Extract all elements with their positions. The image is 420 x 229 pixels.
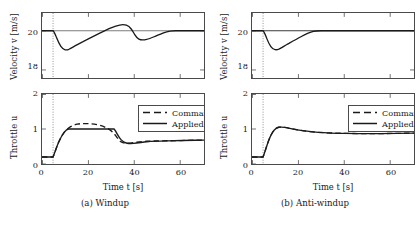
y-tick-label-18: 18 — [2, 62, 38, 70]
legend-dashed-line-icon — [352, 107, 378, 118]
x-tick-label-40: 40 — [124, 168, 144, 176]
x-tick-label-20: 20 — [288, 168, 308, 176]
legend-solid-line-icon — [352, 118, 378, 129]
legend-label-commanded: Commanded — [168, 108, 205, 118]
legend-item-commanded: Commanded — [142, 107, 205, 118]
legend-label-commanded: Commanded — [378, 108, 415, 118]
x-tick-marks — [252, 13, 390, 78]
panel-throttle-anti-windup: Throttle u 0 1 2 — [210, 85, 420, 195]
y-tick-label-18: 18 — [212, 62, 248, 70]
y-tick-label-1: 1 — [212, 125, 248, 133]
x-tick-label-20: 20 — [78, 168, 98, 176]
x-tick-label-0: 0 — [31, 168, 51, 176]
x-tick-label-60: 60 — [171, 168, 191, 176]
velocity-windup-svg — [42, 13, 204, 78]
legend-throttle-anti-windup: Commanded Applied — [348, 105, 415, 132]
y-tick-label-20: 20 — [2, 28, 38, 36]
panel-throttle-windup: Throttle u 0 1 2 — [0, 85, 210, 195]
y-tick-label-1: 1 — [2, 125, 38, 133]
x-axis-label-time: Time t [s] — [251, 182, 415, 192]
x-tick-label-40: 40 — [334, 168, 354, 176]
subfigure-caption-windup: (a) Windup — [0, 198, 210, 208]
legend-item-applied: Applied — [352, 118, 415, 129]
legend-label-applied: Applied — [168, 119, 204, 129]
y-axis-label-throttle: Throttle u — [9, 116, 19, 159]
legend-dashed-line-icon — [142, 107, 168, 118]
velocity-anti-windup-svg — [252, 13, 414, 78]
panel-velocity-anti-windup: Velocity v [m/s] 18 20 — [210, 0, 420, 90]
x-tick-label-0: 0 — [241, 168, 261, 176]
velocity-trace-windup — [42, 25, 204, 50]
x-axis-label-time: Time t [s] — [41, 182, 205, 192]
plot-area-velocity-anti-windup — [251, 12, 415, 79]
velocity-trace-anti-windup — [252, 31, 414, 50]
subfigure-windup: Velocity v [m/s] 18 20 — [0, 0, 210, 229]
legend-label-applied: Applied — [378, 119, 414, 129]
y-tick-label-2: 2 — [212, 89, 248, 97]
x-tick-marks — [42, 13, 180, 78]
x-tick-label-60: 60 — [381, 168, 401, 176]
y-tick-label-2: 2 — [2, 89, 38, 97]
figure-windup-comparison: Velocity v [m/s] 18 20 — [0, 0, 420, 229]
legend-solid-line-icon — [142, 118, 168, 129]
legend-item-applied: Applied — [142, 118, 205, 129]
y-tick-label-20: 20 — [212, 28, 248, 36]
plot-area-velocity-windup — [41, 12, 205, 79]
subfigure-caption-anti-windup: (b) Anti-windup — [210, 198, 420, 208]
plot-area-throttle-anti-windup: Commanded Applied — [251, 93, 415, 165]
legend-throttle-windup: Commanded Applied — [138, 105, 205, 132]
legend-item-commanded: Commanded — [352, 107, 415, 118]
panel-velocity-windup: Velocity v [m/s] 18 20 — [0, 0, 210, 90]
subfigure-anti-windup: Velocity v [m/s] 18 20 — [210, 0, 420, 229]
y-axis-label-throttle: Throttle u — [219, 116, 229, 159]
plot-area-throttle-windup: Commanded Applied — [41, 93, 205, 165]
